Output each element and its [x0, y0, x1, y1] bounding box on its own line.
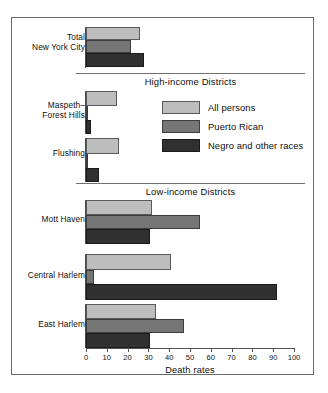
section-label-low-income: Low-income Districts [76, 186, 305, 197]
legend: All persons Puerto Rican Negro and other… [162, 100, 310, 157]
plot-area: Total New York City High-income District… [12, 18, 313, 374]
legend-swatch-all-persons [162, 101, 200, 114]
bar-flushing-all-persons [86, 138, 119, 154]
x-axis-tick [169, 348, 170, 352]
x-axis-tick [294, 348, 295, 352]
group-label-central-harlem: Central Harlem [28, 270, 85, 280]
bar-mott-haven-puerto-rican [86, 215, 200, 229]
legend-item-puerto-rican: Puerto Rican [162, 119, 310, 135]
legend-item-negro-and-other-races: Negro and other races [162, 138, 310, 154]
legend-swatch-negro-and-other-races [162, 139, 200, 152]
x-axis-title: Death rates [86, 365, 294, 375]
bar-total-nyc-puerto-rican [86, 40, 131, 53]
bar-central-harlem-all-persons [86, 254, 171, 270]
bar-mott-haven-negro-other [86, 229, 150, 244]
legend-item-all-persons: All persons [162, 100, 310, 116]
legend-label-negro-and-other-races: Negro and other races [208, 139, 303, 152]
bar-mott-haven-all-persons [86, 200, 152, 215]
legend-label-puerto-rican: Puerto Rican [208, 120, 263, 133]
bar-central-harlem-puerto-rican [86, 270, 94, 284]
group-label-east-harlem: East Harlem [38, 319, 85, 329]
section-divider-high-income [76, 73, 305, 74]
x-axis-tick [232, 348, 233, 352]
x-axis-tick [273, 348, 274, 352]
x-axis-tick [86, 348, 87, 352]
x-axis-tick-label: 100 [282, 353, 306, 362]
group-label-mott-haven: Mott Haven [42, 214, 85, 224]
bar-flushing-puerto-rican [86, 154, 88, 168]
group-label-maspeth-forest-hills: Maspeth– Forest Hills [42, 100, 85, 120]
section-divider-low-income [76, 183, 305, 184]
bar-central-harlem-negro-other [86, 284, 277, 300]
bar-total-nyc-negro-other [86, 53, 144, 67]
x-axis-tick [128, 348, 129, 352]
bar-total-nyc-all-persons [86, 27, 140, 40]
x-axis-tick [211, 348, 212, 352]
x-axis-tick [148, 348, 149, 352]
x-axis-tick [190, 348, 191, 352]
chart-figure: Total New York City High-income District… [11, 17, 314, 375]
bar-east-harlem-negro-other [86, 333, 150, 348]
group-label-total-nyc: Total New York City [32, 32, 85, 52]
bar-maspeth-negro-other [86, 120, 91, 134]
x-axis: 0 10 20 30 40 50 60 70 80 90 100 Death r… [12, 348, 313, 374]
bar-maspeth-puerto-rican [86, 106, 88, 120]
group-label-flushing: Flushing [53, 148, 85, 158]
x-axis-tick [107, 348, 108, 352]
legend-swatch-puerto-rican [162, 120, 200, 133]
legend-label-all-persons: All persons [208, 101, 255, 114]
bar-east-harlem-all-persons [86, 304, 156, 319]
section-label-high-income: High-income Districts [76, 76, 305, 87]
bar-maspeth-all-persons [86, 91, 117, 106]
bar-east-harlem-puerto-rican [86, 319, 184, 333]
bar-flushing-negro-other [86, 168, 99, 182]
x-axis-tick [252, 348, 253, 352]
